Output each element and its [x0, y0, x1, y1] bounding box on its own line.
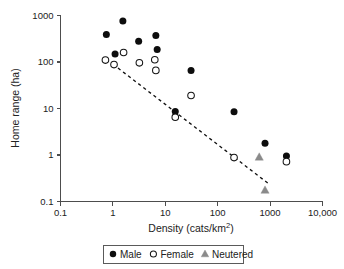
- data-point: [172, 114, 179, 121]
- data-point: [135, 38, 142, 45]
- series-female: [102, 49, 290, 165]
- x-axis-tick-labels: 0.1110100100010,000: [54, 207, 337, 218]
- series-neutered: [255, 153, 269, 193]
- legend-label: Male: [120, 249, 142, 260]
- x-tick-label: 1: [110, 207, 115, 218]
- x-axis-title: Density (cats/km2): [148, 221, 233, 234]
- data-point: [136, 60, 143, 67]
- data-point: [112, 51, 119, 58]
- y-tick-label: 100: [38, 56, 54, 67]
- x-tick-label: 10: [160, 207, 171, 218]
- data-point: [262, 140, 269, 147]
- x-tick-label: 0.1: [54, 207, 67, 218]
- data-point: [120, 49, 127, 56]
- x-axis-ticks: [61, 202, 323, 206]
- x-title-close: ): [230, 222, 234, 234]
- x-tick-label: 10,000: [308, 207, 337, 218]
- chart-figure: 0.11101001000 0.1110100100010,000 Densit…: [0, 0, 344, 269]
- data-point: [119, 18, 126, 25]
- data-point: [111, 61, 118, 68]
- x-tick-label: 1000: [260, 207, 281, 218]
- data-series-layer: [102, 18, 290, 194]
- x-title-base: Density (cats/km: [148, 222, 226, 234]
- data-point: [231, 154, 238, 161]
- data-point: [188, 67, 195, 74]
- regression-trendline: [113, 64, 268, 183]
- data-point: [231, 108, 238, 115]
- series-male: [103, 18, 290, 160]
- data-point: [188, 92, 195, 99]
- data-point: [103, 31, 110, 38]
- y-tick-label: 10: [43, 103, 54, 114]
- legend-label: Neutered: [212, 249, 253, 260]
- data-point: [102, 57, 109, 64]
- data-point: [283, 158, 290, 165]
- legend-label: Female: [160, 249, 194, 260]
- data-point: [255, 153, 263, 160]
- y-tick-label: 1: [48, 149, 53, 160]
- y-axis-title: Home range (ha): [9, 68, 21, 147]
- y-axis-ticks: [57, 16, 61, 202]
- open-circle-icon: [150, 251, 156, 257]
- filled-circle-icon: [110, 251, 116, 257]
- data-point: [154, 46, 161, 53]
- y-tick-label: 1000: [32, 10, 53, 21]
- x-tick-label: 100: [210, 207, 226, 218]
- scatter-plot: 0.11101001000 0.1110100100010,000 Densit…: [0, 0, 344, 269]
- y-tick-label: 0.1: [40, 196, 53, 207]
- data-point: [153, 67, 160, 74]
- y-axis-tick-labels: 0.11101001000: [32, 10, 53, 207]
- data-point: [151, 56, 158, 63]
- legend-items: MaleFemaleNeutered: [110, 249, 253, 260]
- chart-legend: MaleFemaleNeutered: [103, 245, 253, 263]
- data-point: [152, 32, 159, 39]
- data-point: [261, 186, 269, 193]
